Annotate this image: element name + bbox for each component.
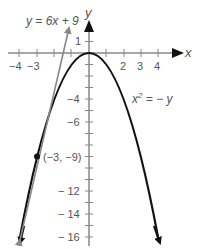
line-equation-label: y = 6x + 9 [25,14,79,28]
x-tick-2: 2 [120,60,126,72]
y-tick-neg16: − 16 [58,231,80,243]
x-tick-neg3: −3 [27,60,40,72]
y-tick-1: 1 [75,35,81,47]
x-tick-4: 4 [154,60,160,72]
x-axis [8,48,184,58]
x-axis-label: x [184,45,192,60]
x-tick-3: 3 [137,60,143,72]
point-label: (−3, −9) [43,151,82,163]
x-tick-neg4: −4 [9,60,22,72]
chart-canvas: x y y = 6x + 9 x2 = − y (−3, −9) 1 −4 −3… [0,0,201,249]
x-axis-arrow-icon [172,48,184,58]
y-tick-neg14: − 14 [58,208,80,220]
parabola-equation-label: x2 = − y [131,91,173,106]
y-tick-neg6: −6 [67,116,80,128]
point-marker [34,154,40,160]
y-tick-neg4: −4 [67,93,80,105]
y-axis-label: y [84,5,93,20]
y-tick-neg12: − 12 [58,185,80,197]
y-axis-arrow-icon [84,20,94,32]
